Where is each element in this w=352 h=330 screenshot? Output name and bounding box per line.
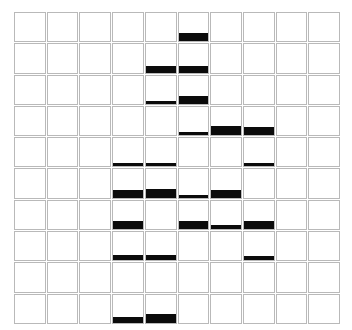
cell-bar [179,33,209,41]
grid-cell [210,231,242,261]
cell-bar [113,255,143,261]
grid-cell [178,294,210,324]
grid-cell [308,137,340,167]
grid-cell [145,75,177,105]
grid-cell [47,12,79,42]
grid-cell [79,43,111,73]
cell-bar [244,163,274,167]
grid-cell [210,75,242,105]
cell-bar [179,195,209,198]
grid-cell [112,106,144,136]
grid-cell [79,168,111,198]
grid-cell [47,106,79,136]
cell-bar [244,127,274,135]
cell-bar [211,126,241,135]
grid-cell [145,106,177,136]
grid-cell [308,75,340,105]
grid-cell [178,106,210,136]
grid-cell [243,262,275,292]
grid-cell [79,231,111,261]
grid-cell [178,168,210,198]
grid-cell [243,106,275,136]
grid-cell [112,137,144,167]
grid-cell [308,262,340,292]
cell-bar [211,225,241,229]
grid-cell [276,168,308,198]
grid-cell [112,294,144,324]
grid-cell [112,200,144,230]
cell-bar [146,66,176,72]
grid-cell [210,294,242,324]
grid-cell [145,12,177,42]
grid-cell [210,43,242,73]
grid-cell [308,294,340,324]
grid-cell [14,168,46,198]
grid-cell [178,137,210,167]
grid-cell [178,43,210,73]
cell-bar [179,221,209,229]
grid-cell [14,12,46,42]
cell-bar [146,163,176,166]
grid-cell [14,200,46,230]
grid-cell [47,75,79,105]
grid-cell [308,106,340,136]
grid-cell [276,231,308,261]
grid-cell [145,168,177,198]
grid-cell [276,75,308,105]
cell-bar [211,190,241,198]
grid-cell [47,43,79,73]
grid-cell [210,137,242,167]
cell-bar [113,190,143,198]
cell-bar [179,132,209,135]
grid-cell [145,262,177,292]
grid-cell [14,43,46,73]
grid-cell [178,231,210,261]
cell-bar [113,317,143,323]
grid-cell [14,294,46,324]
grid-cell [308,43,340,73]
grid-cell [14,231,46,261]
grid-cell [79,75,111,105]
grid-cell [178,200,210,230]
grid-cell [210,106,242,136]
grid-cell [308,12,340,42]
grid-cell [79,294,111,324]
grid-cell [210,262,242,292]
cell-bar [179,96,209,104]
grid-cell [14,137,46,167]
chart-root [0,0,352,330]
grid-cell [243,43,275,73]
grid-cell [14,106,46,136]
grid-cell [276,43,308,73]
cell-bar [146,314,176,323]
grid-cell [112,231,144,261]
cell-bar [146,189,176,197]
grid-cell [178,262,210,292]
grid-cell [276,200,308,230]
cell-bar [179,66,209,72]
grid-cell [243,137,275,167]
grid-cell [47,231,79,261]
cell-bar [244,256,274,261]
grid-cell [178,75,210,105]
grid-cell [112,168,144,198]
cell-bar [113,163,143,167]
grid-cell [276,12,308,42]
grid-cell [308,231,340,261]
grid-cell [210,12,242,42]
grid-cell [243,12,275,42]
grid-cell [47,294,79,324]
grid-cell [243,168,275,198]
small-multiples-grid [14,12,340,324]
grid-cell [145,231,177,261]
grid-cell [112,43,144,73]
grid-cell [79,137,111,167]
grid-cell [276,294,308,324]
grid-cell [47,137,79,167]
grid-cell [145,200,177,230]
grid-cell [210,168,242,198]
grid-cell [276,137,308,167]
grid-cell [79,200,111,230]
grid-cell [112,75,144,105]
grid-cell [79,12,111,42]
